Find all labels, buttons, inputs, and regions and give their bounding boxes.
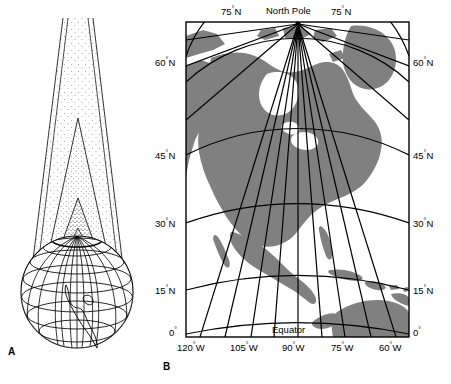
lon-label-75w: 75°W (331, 341, 353, 353)
lat-label-left-45n: 45°N (155, 149, 175, 161)
globe-cone-illustration (0, 0, 160, 384)
lon-label-90w: 90°W (282, 341, 304, 353)
equator-label: Equator (272, 324, 305, 335)
north-pole-marker (295, 21, 300, 26)
lon-label-120w: 120°W (177, 341, 205, 353)
lat-label-right-15n: 15°N (413, 284, 433, 296)
lat-label-left-0: 0° (169, 326, 177, 338)
panel-b-conic-map: North Pole 75°N 75°N 60°N 45°N 30°N 15°N… (155, 0, 451, 384)
top-label-75n-west: 75°N (221, 5, 241, 17)
panel-a-globe-cone: A (0, 0, 160, 384)
lat-label-right-45n: 45°N (413, 149, 433, 161)
lat-label-left-15n: 15°N (155, 284, 175, 296)
panel-b-label: B (163, 362, 170, 372)
lat-label-right-0: 0° (413, 326, 421, 338)
north-pole-label: North Pole (266, 5, 311, 16)
lon-label-60w: 60°W (379, 341, 401, 353)
lat-label-left-30n: 30°N (155, 217, 175, 229)
top-label-75n-east: 75°N (331, 5, 351, 17)
lat-label-right-60n: 60°N (413, 56, 433, 68)
lat-label-left-60n: 60°N (155, 56, 175, 68)
figure-conic-projection: A (0, 0, 451, 384)
lat-label-right-30n: 30°N (413, 217, 433, 229)
lon-label-105w: 105°W (230, 341, 258, 353)
panel-a-label: A (8, 347, 15, 357)
